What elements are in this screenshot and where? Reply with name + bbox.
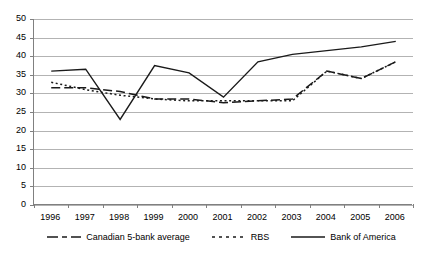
y-axis-label: 10 bbox=[0, 163, 26, 172]
legend-entry[interactable]: Bank of America bbox=[291, 232, 396, 242]
series-line bbox=[51, 41, 396, 119]
chart-legend: Canadian 5-bank averageRBSBank of Americ… bbox=[0, 232, 443, 242]
series-layer bbox=[34, 19, 413, 205]
legend-label: Bank of America bbox=[330, 232, 396, 242]
legend-label: RBS bbox=[251, 232, 270, 242]
solid-line-swatch bbox=[291, 233, 325, 241]
y-axis-label: 45 bbox=[0, 33, 26, 42]
legend-label: Canadian 5-bank average bbox=[86, 232, 190, 242]
x-axis-label: 2006 bbox=[375, 212, 415, 222]
y-axis-label: 35 bbox=[0, 70, 26, 79]
y-axis-label: 25 bbox=[0, 107, 26, 116]
plot-area bbox=[33, 19, 412, 205]
y-axis-label: 20 bbox=[0, 126, 26, 135]
gridline bbox=[34, 205, 413, 206]
legend-entry[interactable]: Canadian 5-bank average bbox=[47, 232, 190, 242]
line-chart: 05101520253035404550 1996199719981999200… bbox=[0, 0, 443, 260]
dashed-line-swatch bbox=[47, 233, 81, 241]
y-axis-label: 40 bbox=[0, 51, 26, 60]
y-axis-label: 0 bbox=[0, 200, 26, 209]
legend-entry[interactable]: RBS bbox=[212, 232, 270, 242]
y-axis-label: 30 bbox=[0, 88, 26, 97]
y-axis-label: 15 bbox=[0, 144, 26, 153]
x-axis-tick bbox=[413, 204, 414, 208]
dotted-line-swatch bbox=[212, 233, 246, 241]
y-axis-label: 5 bbox=[0, 181, 26, 190]
y-axis-label: 50 bbox=[0, 14, 26, 23]
